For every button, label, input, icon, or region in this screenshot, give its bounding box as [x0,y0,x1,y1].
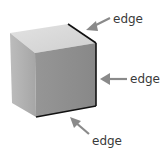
edge-label-middle: edge [130,72,160,86]
arrowhead-icon [86,21,98,31]
cube-edge-diagram: edge edge edge [0,0,162,156]
edge-label-bottom: edge [92,134,122,148]
cube [10,24,96,117]
arrow-top [86,18,110,31]
arrow-bottom [70,117,89,134]
edge-label-top: edge [113,12,143,26]
cube-front-face [35,43,96,117]
arrowhead-icon [100,73,110,85]
arrow-middle [100,73,127,85]
